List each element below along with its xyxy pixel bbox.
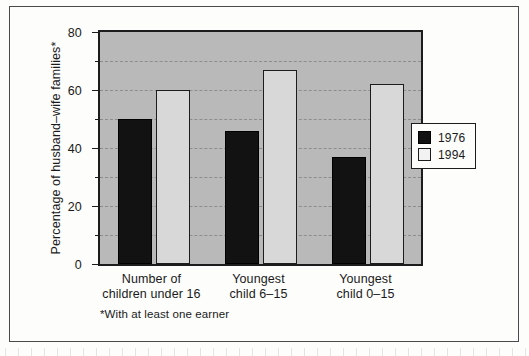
bar-1976-group-1 [118,119,152,264]
y-axis-title-text: Percentage of husband–wife families* [49,42,63,255]
legend-label-1976: 1976 [438,131,466,145]
chart-footnote: *With at least one earner [100,308,229,320]
bar-1994-group-1 [156,90,190,264]
bar-1994-group-2 [263,70,297,264]
scan-artifact [0,348,529,356]
legend-swatch-white-square [418,148,431,161]
y-axis-title: Percentage of husband–wife families* [47,30,65,266]
legend-item-1976[interactable]: 1976 [418,129,466,146]
x-axis-label-line1-group-3: Youngest [339,272,391,286]
x-axis-label-line2-group-3: child 0–15 [286,287,446,302]
gridline-70 [100,61,421,62]
plot-area: 020406080 [98,30,423,266]
legend-label-1994: 1994 [438,148,466,162]
bar-1976-group-3 [332,157,366,264]
x-axis-label-line1-group-2: Youngest [232,272,284,286]
figure-root: Percentage of husband–wife families* 020… [0,0,529,356]
x-axis-label-line1-group-1: Number of [122,272,181,286]
bar-1976-group-2 [225,131,259,264]
x-axis-label-group-3: Youngestchild 0–15 [286,272,446,302]
legend-swatch-black-square [418,131,431,144]
bar-1994-group-3 [370,84,404,264]
chart-legend: 1976 1994 [411,123,476,169]
legend-item-1994[interactable]: 1994 [418,146,466,163]
